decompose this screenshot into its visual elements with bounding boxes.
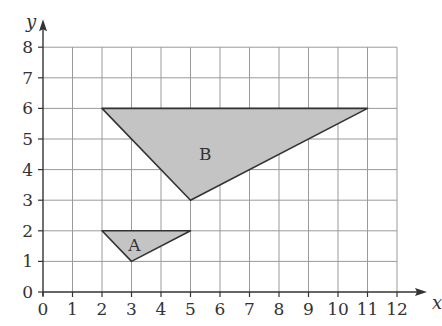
x-tick-label: 5 xyxy=(185,299,196,319)
y-tick-label: 8 xyxy=(22,37,33,57)
y-tick-label: 3 xyxy=(22,190,33,210)
y-tick-label: 7 xyxy=(22,68,33,88)
coordinate-diagram: AB 0123456789101112012345678xy xyxy=(0,0,442,326)
x-tick-label: 3 xyxy=(126,299,137,319)
triangle-label: B xyxy=(199,144,212,164)
triangles: AB xyxy=(102,108,368,261)
triangle-a xyxy=(102,231,191,262)
y-axis-label: y xyxy=(25,11,37,32)
x-tick-label: 2 xyxy=(97,299,108,319)
x-tick-label: 10 xyxy=(327,299,349,319)
x-tick-label: 0 xyxy=(38,299,49,319)
y-tick-label: 6 xyxy=(22,98,33,118)
x-tick-label: 9 xyxy=(303,299,314,319)
y-tick-label: 0 xyxy=(22,282,33,302)
triangle-b xyxy=(102,108,368,200)
x-tick-label: 1 xyxy=(67,299,78,319)
x-tick-label: 11 xyxy=(357,299,379,319)
y-tick-label: 4 xyxy=(22,160,33,180)
x-tick-label: 4 xyxy=(156,299,167,319)
triangle-label: A xyxy=(127,235,141,255)
y-tick-label: 1 xyxy=(22,251,33,271)
x-axis-label: x xyxy=(432,292,442,313)
x-tick-label: 7 xyxy=(244,299,255,319)
y-tick-label: 2 xyxy=(22,221,33,241)
x-tick-label: 6 xyxy=(215,299,226,319)
x-tick-label: 8 xyxy=(274,299,285,319)
x-tick-label: 12 xyxy=(386,299,408,319)
grid-plot: AB 0123456789101112012345678xy xyxy=(0,0,442,326)
y-tick-label: 5 xyxy=(22,129,33,149)
